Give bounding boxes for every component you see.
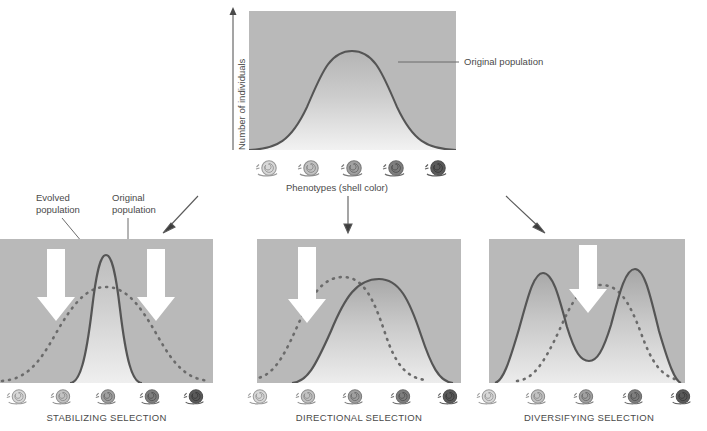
y-axis-label: Number of individuals xyxy=(236,59,247,150)
snail-row-directional xyxy=(245,386,463,406)
snail-icon-shade-4 xyxy=(620,387,648,406)
snail-icon-shade-1 xyxy=(253,158,283,178)
snail-icon-shade-4 xyxy=(380,158,410,178)
arrow-down-left xyxy=(288,247,326,323)
callout-original-population: Original population xyxy=(464,56,543,68)
panel-diversifying-selection xyxy=(489,239,685,383)
snail-icon-shade-5 xyxy=(435,387,463,406)
snail-row-diversifying xyxy=(474,386,696,406)
legend-evolved-population: Evolved population xyxy=(36,192,100,216)
stabilizing-chart xyxy=(0,239,213,383)
evolved-curve-fill xyxy=(70,255,142,383)
snail-row-original xyxy=(253,156,452,178)
snail-icon-shade-1 xyxy=(4,387,32,406)
caption-stabilizing-selection: STABILIZING SELECTION xyxy=(0,412,213,423)
arrow-down-right xyxy=(137,249,175,321)
original-population-chart xyxy=(249,11,456,150)
snail-icon-shade-5 xyxy=(668,387,696,406)
evolved-curve-fill xyxy=(292,279,453,383)
panel-directional-selection xyxy=(257,239,461,383)
snail-icon-shade-3 xyxy=(340,387,368,406)
selection-pressure-arrows xyxy=(569,245,607,313)
arrow-down-left xyxy=(37,249,75,321)
curve-fill xyxy=(249,51,456,150)
snail-icon-shade-5 xyxy=(181,387,209,406)
legend-evolved-line-1: Evolved xyxy=(36,192,70,203)
caption-diversifying-selection: DIVERSIFYING SELECTION xyxy=(478,412,700,423)
snail-icon-shade-2 xyxy=(295,158,325,178)
panel-original-population xyxy=(249,11,456,150)
snail-icon-shade-4 xyxy=(388,387,416,406)
snail-icon-shade-1 xyxy=(245,387,273,406)
directional-chart xyxy=(257,239,461,383)
legend-evolved-line-2: population xyxy=(36,204,80,215)
arrow-down-center xyxy=(569,245,607,313)
legend-original-population: Original population xyxy=(112,192,176,216)
legend-original-line-1: Original xyxy=(112,192,145,203)
diversifying-chart xyxy=(489,239,685,383)
snail-icon-shade-3 xyxy=(93,387,121,406)
legend-original-line-2: population xyxy=(112,204,156,215)
arrow-center-head xyxy=(344,224,352,233)
snail-row-stabilizing xyxy=(4,386,209,406)
selection-pressure-arrows xyxy=(288,247,326,323)
panel-stabilizing-selection xyxy=(0,239,213,383)
arrow-left-head xyxy=(163,223,175,233)
snail-icon-shade-3 xyxy=(571,387,599,406)
arrow-right-line xyxy=(506,196,540,228)
snail-icon-shade-4 xyxy=(137,387,165,406)
snail-icon-shade-2 xyxy=(48,387,76,406)
snail-icon-shade-2 xyxy=(293,387,321,406)
caption-directional-selection: DIRECTIONAL SELECTION xyxy=(249,412,469,423)
snail-icon-shade-3 xyxy=(338,158,368,178)
snail-icon-shade-5 xyxy=(422,158,452,178)
snail-icon-shade-1 xyxy=(474,387,502,406)
natural-selection-figure: Number of individuals xyxy=(0,0,707,431)
snail-icon-shade-2 xyxy=(523,387,551,406)
x-axis-label: Phenotypes (shell color) xyxy=(286,182,388,194)
arrow-right-head xyxy=(533,223,545,233)
